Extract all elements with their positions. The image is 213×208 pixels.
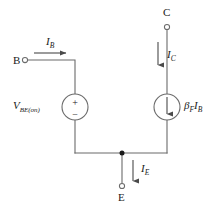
beta-subscript: F	[189, 105, 194, 114]
terminal-circle-e	[119, 183, 124, 188]
terminal-label-c: C	[163, 7, 171, 18]
voltage-source-subscript: BE(on)	[20, 106, 40, 114]
polarity-minus: −	[69, 110, 81, 120]
wire-base-branch	[28, 60, 75, 94]
polarity-plus: +	[69, 98, 81, 108]
voltage-source-label: VBE(on)	[13, 100, 40, 111]
terminal-label-b: B	[13, 55, 21, 66]
terminal-circle-c	[164, 24, 169, 29]
voltage-source-symbol-text: V	[13, 99, 20, 111]
current-label-ic: IC	[167, 49, 176, 60]
circuit-diagram-canvas: B C E IB IC IE VBE(on) + − βFIB	[0, 0, 213, 208]
current-subscript-ic: C	[171, 54, 176, 63]
terminal-circle-b	[22, 57, 27, 62]
current-source-label: βFIB	[184, 100, 202, 111]
current-subscript-ib: B	[50, 41, 55, 50]
beta-factor-subscript: B	[198, 105, 203, 114]
current-label-ib: IB	[46, 36, 54, 47]
current-subscript-ie: E	[145, 168, 150, 177]
terminal-label-e: E	[118, 192, 125, 203]
junction-dot-emitter	[120, 151, 125, 156]
current-label-ie: IE	[141, 163, 149, 174]
